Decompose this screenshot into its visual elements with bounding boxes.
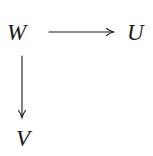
arrow-w-to-u	[49, 29, 114, 36]
arrows-layer	[0, 0, 153, 156]
arrow-w-to-v	[19, 56, 26, 118]
